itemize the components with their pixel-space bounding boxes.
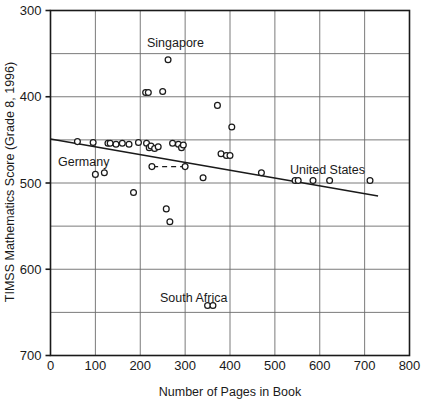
annotation-south-africa: South Africa (160, 291, 227, 305)
data-point (149, 164, 155, 170)
plot-background (0, 0, 422, 403)
plot-svg: 0100200300400500600700800 70060050040030… (0, 0, 422, 403)
annotation-singapore: Singapore (147, 36, 204, 50)
data-point (131, 190, 137, 196)
data-point (107, 140, 113, 146)
scatter-chart: 0100200300400500600700800 70060050040030… (0, 0, 422, 403)
data-point (113, 141, 119, 147)
y-tick-label: 700 (20, 348, 42, 363)
data-point (229, 124, 235, 130)
data-point (75, 139, 81, 145)
data-point (126, 141, 132, 147)
data-point (165, 57, 171, 63)
data-point (101, 170, 107, 176)
x-tick-label: 0 (47, 358, 54, 373)
x-tick-label: 200 (129, 358, 151, 373)
data-point (295, 178, 301, 184)
data-point (90, 140, 96, 146)
annotation-germany: Germany (58, 155, 110, 169)
data-point (327, 178, 333, 184)
x-tick-label: 300 (174, 358, 196, 373)
x-tick-label: 400 (219, 358, 241, 373)
data-point (92, 171, 98, 177)
y-axis-title: TIMSS Mathematics Score (Grade 8, 1996) (3, 62, 17, 302)
y-tick-label: 600 (20, 262, 42, 277)
x-axis-title: Number of Pages in Book (159, 385, 302, 399)
data-point (215, 102, 221, 108)
data-point (119, 140, 125, 146)
annotation-united-states: United States (290, 163, 365, 177)
x-tick-label: 100 (85, 358, 107, 373)
y-tick-label: 500 (20, 176, 42, 191)
x-tick-label: 700 (354, 358, 376, 373)
data-point (167, 219, 173, 225)
data-point (259, 170, 265, 176)
data-point (163, 206, 169, 212)
data-point (227, 153, 233, 159)
data-point (155, 144, 161, 150)
data-point (136, 140, 142, 146)
data-point (182, 164, 188, 170)
x-tick-labels: 0100200300400500600700800 (47, 358, 420, 373)
x-tick-label: 600 (309, 358, 331, 373)
data-point (200, 175, 206, 181)
data-point (160, 89, 166, 95)
data-point (367, 178, 373, 184)
data-point (310, 178, 316, 184)
data-point (145, 90, 151, 96)
y-tick-label: 400 (20, 89, 42, 104)
x-tick-label: 500 (264, 358, 286, 373)
data-point (170, 140, 176, 146)
x-tick-label: 800 (399, 358, 421, 373)
y-tick-label: 300 (20, 3, 42, 18)
data-point (180, 142, 186, 148)
